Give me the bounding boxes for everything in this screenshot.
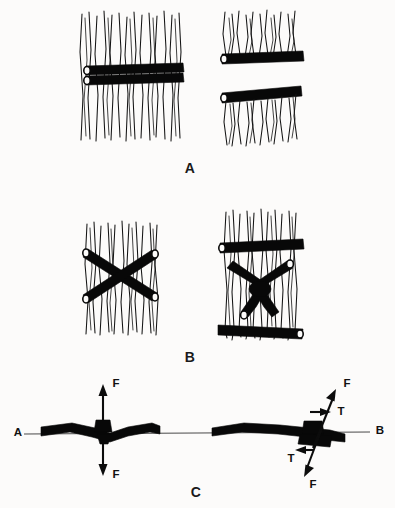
- vector-label-t-right: T: [333, 405, 349, 417]
- panel-letter-b: B: [170, 349, 210, 365]
- panel-c-vector-f-up-left: [99, 384, 108, 420]
- vector-label-f-down-left: F: [108, 468, 124, 480]
- vector-label-t-left: T: [283, 452, 299, 464]
- panel-a-right-rod-upper: [221, 51, 304, 64]
- figure-artwork: .fiber { stroke: #141414; stroke-width: …: [0, 0, 395, 508]
- figure-root: .fiber { stroke: #141414; stroke-width: …: [0, 0, 395, 508]
- panel-c-left-knot: [41, 420, 160, 444]
- panel-a-right-rod-lower: [221, 86, 302, 103]
- vector-label-f-down-right: F: [305, 478, 321, 490]
- vector-label-f-up-left: F: [108, 377, 124, 389]
- panel-letter-a: A: [170, 160, 210, 176]
- panel-b-right-fiber-bundle: [224, 209, 297, 340]
- panel-c-right-knot: [212, 421, 345, 447]
- axis-label-a: A: [10, 426, 26, 438]
- panel-letter-c: C: [176, 484, 216, 500]
- vector-label-f-up-right: F: [339, 377, 355, 389]
- axis-label-b: B: [372, 424, 388, 436]
- panel-c-vector-f-down-left: [99, 444, 108, 476]
- panel-a-right-upper-fiber-bundle: [223, 10, 296, 57]
- panel-b-right-knot-center: [249, 281, 271, 297]
